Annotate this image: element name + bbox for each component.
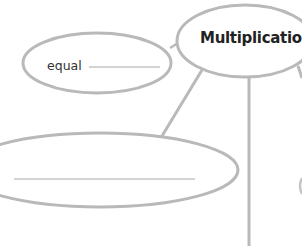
node-lower-left-oval xyxy=(0,133,238,207)
connector-center-right xyxy=(298,66,302,78)
node-equal-oval xyxy=(23,33,171,93)
concept-map: Multiplication equal xyxy=(0,0,302,246)
center-node-label: Multiplication xyxy=(200,29,302,47)
connector-center-lower-left xyxy=(162,70,202,136)
node-right-partial-oval xyxy=(300,178,302,194)
equal-node-label: equal xyxy=(47,58,82,73)
